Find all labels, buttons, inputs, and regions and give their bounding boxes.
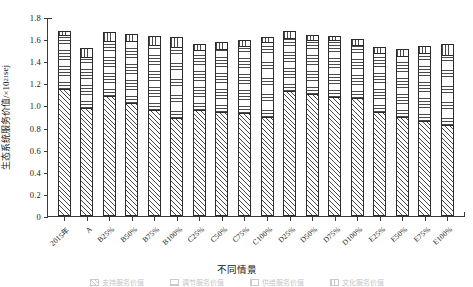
y-axis-tick [44,62,48,63]
plot-area [47,18,465,217]
y-axis-tick-label: 1.2 [30,79,41,89]
bar-segment-1 [351,45,364,99]
x-axis-tick-label: B100% [161,225,184,247]
x-axis-tick [199,217,200,221]
x-axis-tick [290,217,291,221]
bar-segment-1 [80,57,93,109]
bar-segment-1 [193,50,206,111]
legend-item: 支持服务价值 [90,279,144,287]
bar-stack [261,35,274,216]
bar-segment-1 [148,45,161,111]
x-axis-tick [64,217,65,221]
bar-segment-1 [170,47,183,119]
y-axis-tick-label: 1.8 [30,13,41,23]
bar-stack [58,29,71,216]
bar-segment-0 [418,121,431,216]
bar-segment-1 [328,40,341,97]
bar-stack [328,34,341,216]
legend-swatch [330,279,339,286]
chart-legend: 支持服务价值调节服务价值供给服务价值文化服务价值 [0,279,473,287]
x-axis-tick-label: B25% [96,225,116,245]
x-axis-title: 不同情景 [0,262,473,276]
bar-stack [306,32,319,216]
bar-stack [80,46,93,216]
x-axis-tick-label: E75% [412,225,432,244]
bar-segment-0 [238,113,251,216]
x-axis-tick [244,217,245,221]
bar-segment-0 [441,125,454,216]
bar-stack [373,45,386,216]
x-axis-tick-label: B75% [141,225,161,245]
bar-segment-0 [328,97,341,216]
y-axis-tick [44,195,48,196]
bar-segment-1 [306,40,319,95]
bar-segment-0 [351,98,364,216]
legend-swatch [250,279,259,286]
y-axis-title-unit: sej [0,65,10,75]
bar-segment-1 [396,56,409,118]
x-axis-tick [87,217,88,221]
bar-segment-1 [418,53,431,122]
bar-segment-1 [373,53,386,113]
x-axis-tick [267,217,268,221]
bar-segment-0 [58,89,71,216]
legend-item: 文化服务价值 [330,279,384,287]
legend-swatch [90,279,99,286]
bar-segment-0 [103,96,116,217]
x-axis-tick [425,217,426,221]
x-axis-tick-label: C25% [186,225,206,245]
legend-label: 文化服务价值 [342,279,384,287]
x-axis-tick-label: D50% [298,225,319,245]
bar-stack [238,38,251,216]
bar-segment-1 [283,38,296,92]
bar-stack [103,30,116,216]
x-axis-tick-label: D25% [276,225,297,245]
x-axis-tick [222,217,223,221]
x-axis-tick [177,217,178,221]
x-axis-tick-label: C75% [231,225,251,245]
x-axis-tick [357,217,358,221]
x-axis-tick [402,217,403,221]
bar-segment-1 [58,35,71,90]
bar-segment-0 [170,118,183,216]
y-axis-tick-label: 1.6 [30,35,41,45]
bar-stack [125,32,138,216]
legend-item: 供给服务价值 [250,279,304,287]
x-axis-tick [380,217,381,221]
y-axis-tick [44,106,48,107]
legend-swatch [170,279,179,286]
bar-segment-1 [441,55,454,127]
y-axis-title-text: 生态系统服务价值/×10 [0,81,12,170]
y-axis-tick [44,129,48,130]
x-axis-tick-label: E25% [367,225,387,244]
x-axis-tick-label: C100% [251,225,274,247]
bar-stack [148,34,161,216]
x-axis-tick [154,217,155,221]
bar-segment-1 [215,49,228,113]
y-axis-tick-label: 1.0 [30,101,41,111]
x-axis-tick-label: C50% [209,225,229,245]
bar-segment-0 [396,117,409,217]
y-axis-tick [44,84,48,85]
legend-label: 调节服务价值 [182,279,224,287]
y-axis-tick-label: 0.6 [30,146,41,156]
bar-segment-0 [193,110,206,216]
bar-stack [396,47,409,216]
x-axis-tick-label: E50% [389,225,409,244]
x-axis-tick-label: E100% [431,225,454,247]
bar-stack [351,37,364,216]
y-axis-tick [44,151,48,152]
bar-stack [441,42,454,216]
legend-label: 支持服务价值 [102,279,144,287]
x-axis-tick-label: D75% [321,225,342,245]
bar-segment-1 [103,41,116,96]
bar-stack [283,29,296,216]
y-axis-tick [44,217,48,218]
bar-segment-1 [238,46,251,115]
legend-label: 供给服务价值 [262,279,304,287]
bar-segment-0 [261,117,274,217]
y-axis-tick-label: 0 [37,212,41,222]
x-axis-tick [447,217,448,221]
y-axis-tick-label: 0.4 [30,168,41,178]
y-axis-tick [44,40,48,41]
